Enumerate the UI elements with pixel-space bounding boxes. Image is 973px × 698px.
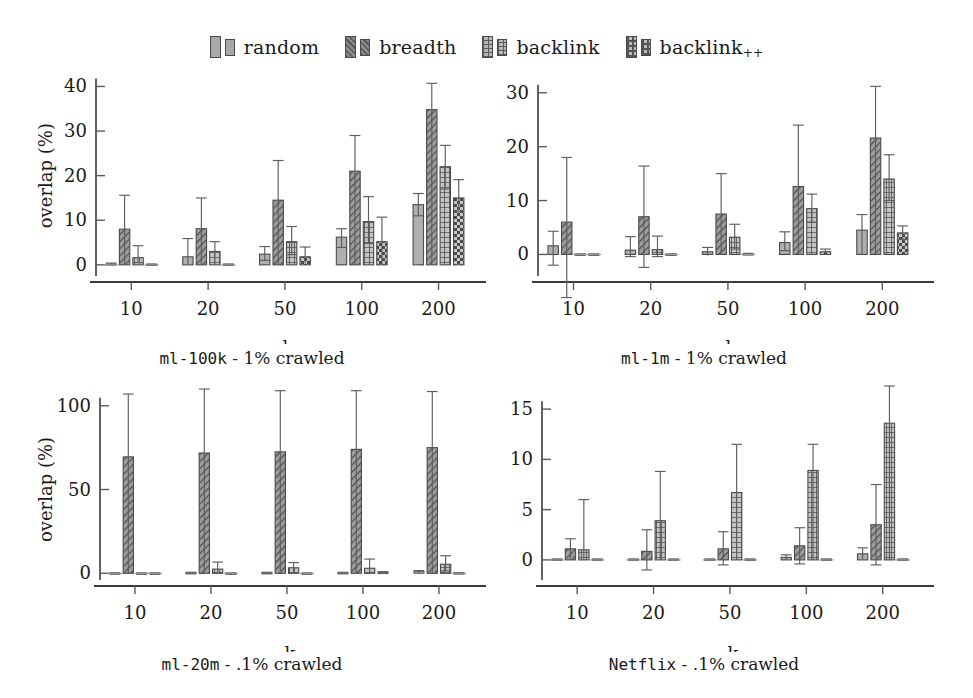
y-tick-label: 0 <box>80 562 91 583</box>
y-tick-label: 0 <box>76 254 87 275</box>
y-tick-label: 0 <box>518 243 529 264</box>
x-axis-title: k <box>726 337 738 344</box>
caption-crawl-rate: - .1% crawled <box>676 654 799 674</box>
x-axis-title: k <box>728 643 740 652</box>
legend-swatch-solid-gray <box>210 36 235 58</box>
caption-crawl-rate: - .1% crawled <box>219 654 342 674</box>
caption-dataset-name: ml-1m <box>621 349 669 368</box>
x-tick-label: 50 <box>276 602 299 623</box>
x-axis-title: k <box>283 337 295 344</box>
x-axis-title: k <box>285 643 297 652</box>
x-tick-label: 200 <box>422 602 456 623</box>
legend-label-breadth: breadth <box>379 36 456 58</box>
legend-label-backlinkpp: backlink++ <box>660 36 764 58</box>
chart-panel-netflix: 051015102050100200k <box>476 372 936 652</box>
x-tick-label: 100 <box>788 298 822 319</box>
legend-label-backlink: backlink <box>516 36 599 58</box>
figure-legend: randombreadthbacklinkbacklink++ <box>0 30 973 64</box>
plot-ml-1m: 0102030102050100200k <box>476 72 936 344</box>
legend-swatch-dots-part-1 <box>626 36 637 58</box>
x-tick-label: 20 <box>197 298 220 319</box>
y-tick-label: 0 <box>522 549 533 570</box>
y-tick-label: 40 <box>64 75 87 96</box>
x-tick-label: 50 <box>718 602 741 623</box>
y-tick-label: 10 <box>64 209 87 230</box>
legend-entry-random: random <box>210 36 319 58</box>
y-axis-title: overlap (%) <box>35 437 56 542</box>
x-tick-label: 200 <box>866 602 900 623</box>
x-tick-label: 50 <box>273 298 296 319</box>
x-tick-label: 100 <box>345 298 379 319</box>
caption-dataset-name: ml-100k <box>159 349 226 368</box>
y-tick-label: 10 <box>506 190 529 211</box>
plot-ml-100k: 010203040overlap (%)102050100200k <box>34 72 486 344</box>
x-tick-label: 200 <box>865 298 899 319</box>
x-tick-label: 10 <box>566 602 589 623</box>
x-tick-label: 10 <box>562 298 585 319</box>
y-tick-label: 20 <box>64 165 87 186</box>
chart-panel-ml-1m: 0102030102050100200k <box>476 72 936 344</box>
x-tick-label: 50 <box>716 298 739 319</box>
caption-dataset-name: Netflix <box>609 655 676 674</box>
chart-caption-netflix: Netflix - .1% crawled <box>474 654 934 674</box>
legend-swatch-grid-part-2 <box>497 39 507 56</box>
legend-swatch-solid-gray-part-2 <box>225 39 235 56</box>
x-tick-label: 100 <box>346 602 380 623</box>
chart-caption-ml-100k: ml-100k - 1% crawled <box>22 348 482 368</box>
y-tick-label: 50 <box>68 479 91 500</box>
legend-label-subscript: ++ <box>743 46 764 60</box>
x-tick-label: 200 <box>421 298 455 319</box>
x-tick-label: 10 <box>120 298 143 319</box>
y-tick-label: 30 <box>506 82 529 103</box>
x-tick-label: 20 <box>200 602 223 623</box>
y-tick-label: 10 <box>510 448 533 469</box>
legend-swatch-grid-part-1 <box>482 36 493 58</box>
legend-entry-backlinkpp: backlink++ <box>626 36 764 58</box>
caption-crawl-rate: - 1% crawled <box>669 348 787 368</box>
legend-swatch-grid <box>482 36 507 58</box>
legend-swatch-dots-part-2 <box>641 39 651 56</box>
plot-ml-20m: 050100overlap (%)102050100200k <box>34 372 486 652</box>
y-axis-title: overlap (%) <box>35 123 56 228</box>
y-tick-label: 100 <box>57 395 91 416</box>
legend-swatch-diagonal-part-2 <box>360 39 370 56</box>
chart-panel-ml-100k: 010203040overlap (%)102050100200k <box>34 72 486 344</box>
legend-entry-backlink: backlink <box>482 36 599 58</box>
x-tick-label: 20 <box>639 298 662 319</box>
legend-swatch-diagonal <box>345 36 370 58</box>
legend-entry-breadth: breadth <box>345 36 456 58</box>
y-tick-label: 20 <box>506 136 529 157</box>
x-tick-label: 20 <box>642 602 665 623</box>
y-tick-label: 30 <box>64 120 87 141</box>
chart-panel-ml-20m: 050100overlap (%)102050100200k <box>34 372 486 652</box>
x-tick-label: 10 <box>124 602 147 623</box>
legend-swatch-diagonal-part-1 <box>345 36 356 58</box>
chart-caption-ml-1m: ml-1m - 1% crawled <box>474 348 934 368</box>
x-tick-label: 100 <box>789 602 823 623</box>
chart-caption-ml-20m: ml-20m - .1% crawled <box>22 654 482 674</box>
plot-netflix: 051015102050100200k <box>476 372 936 652</box>
y-tick-label: 5 <box>522 499 533 520</box>
legend-label-random: random <box>244 36 319 58</box>
caption-dataset-name: ml-20m <box>162 655 220 674</box>
caption-crawl-rate: - 1% crawled <box>227 348 345 368</box>
legend-swatch-solid-gray-part-1 <box>210 36 221 58</box>
legend-swatch-dots <box>626 36 651 58</box>
y-tick-label: 15 <box>510 398 533 419</box>
